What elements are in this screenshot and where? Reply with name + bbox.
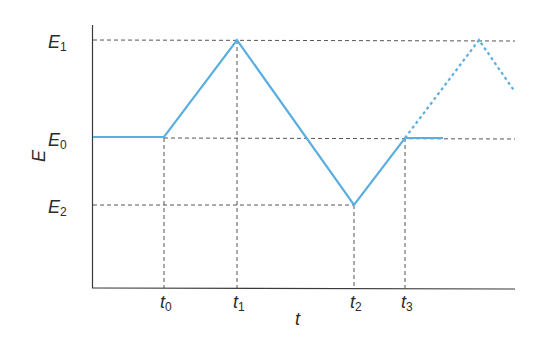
energy-curve-dotted [405, 40, 515, 138]
y-axis-title: E [29, 149, 49, 162]
horizontal-guides [93, 40, 515, 205]
guide-E1 [93, 40, 515, 41]
guide-E0 [164, 138, 515, 139]
x-axis [92, 288, 515, 289]
label-E2: E2 [48, 197, 67, 219]
vertical-guides [164, 40, 405, 288]
label-t2: t2 [350, 292, 362, 314]
axes [92, 25, 515, 289]
label-E1: E1 [48, 32, 67, 54]
label-E0: E0 [48, 130, 67, 152]
energy-time-diagram: E1 E0 E2 t0 t1 t2 t3 E t [0, 0, 544, 347]
x-axis-title: t [295, 309, 301, 329]
label-t1: t1 [233, 292, 245, 314]
energy-curve-solid [93, 40, 443, 205]
label-t3: t3 [401, 292, 413, 314]
label-t0: t0 [160, 292, 172, 314]
